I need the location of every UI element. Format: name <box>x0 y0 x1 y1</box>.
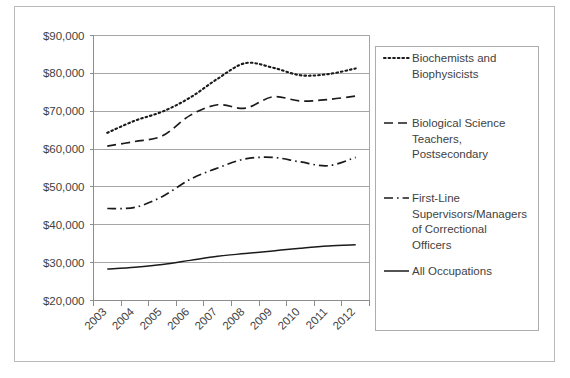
y-axis-tick-label: $90,000 <box>43 30 85 42</box>
y-axis-tick-label: $70,000 <box>43 105 85 117</box>
x-axis-tick-label: 2008 <box>220 305 247 332</box>
y-axis-tick-label: $50,000 <box>43 181 85 193</box>
x-axis-tick-label: 2006 <box>165 305 192 332</box>
y-axis-tick-labels: $90,000$80,000$70,000$60,000$50,000$40,0… <box>43 30 85 307</box>
legend-label-1: Biological Science <box>412 117 505 129</box>
legend-label-2: Officers <box>412 239 452 251</box>
x-axis-tick-label: 2005 <box>137 305 164 332</box>
y-axis-tick-label: $40,000 <box>43 219 85 231</box>
series-line-2 <box>107 157 355 208</box>
legend-label-3: All Occupations <box>412 265 492 277</box>
y-axis-tick-label: $60,000 <box>43 143 85 155</box>
legend-border <box>376 47 539 331</box>
x-axis-tick-label: 2009 <box>248 305 275 332</box>
legend-label-1: Teachers, <box>412 133 462 145</box>
chart-legend: Biochemists andBiophysicistsBiological S… <box>376 47 539 331</box>
axes <box>90 36 370 306</box>
x-axis-tick-label: 2011 <box>304 305 330 331</box>
data-series <box>107 63 355 269</box>
legend-label-0: Biochemists and <box>412 52 496 64</box>
series-line-1 <box>107 96 355 146</box>
legend-label-2: First-Line <box>412 192 460 204</box>
legend-label-2: of Correctional <box>412 223 487 235</box>
x-axis-tick-label: 2007 <box>193 305 220 332</box>
x-axis-tick-label: 2012 <box>331 305 358 332</box>
chart-container: $90,000$80,000$70,000$60,000$50,000$40,0… <box>0 0 570 378</box>
x-axis-tick-label: 2010 <box>275 305 302 332</box>
legend-label-1: Postsecondary <box>412 148 488 160</box>
x-axis-tick-labels: 2003200420052006200720082009201020112012 <box>82 305 357 332</box>
y-axis-tick-label: $80,000 <box>43 67 85 79</box>
legend-label-0: Biophysicists <box>412 68 479 80</box>
gridlines <box>94 36 370 301</box>
y-axis-tick-label: $20,000 <box>43 295 85 307</box>
x-axis-tick-label: 2004 <box>110 305 137 332</box>
y-axis-tick-label: $30,000 <box>43 257 85 269</box>
x-axis-tick-label: 2003 <box>82 305 109 332</box>
legend-label-2: Supervisors/Managers <box>412 208 527 220</box>
series-line-3 <box>107 245 355 269</box>
chart-plot-svg: $90,000$80,000$70,000$60,000$50,000$40,0… <box>0 0 570 378</box>
